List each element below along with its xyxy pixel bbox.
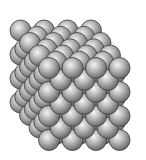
atom-sphere [86, 58, 107, 79]
atom-sphere [62, 58, 83, 79]
lattice-svg [0, 0, 146, 160]
crystal-lattice-illustration [0, 0, 146, 160]
sphere-group [10, 20, 130, 151]
atom-sphere [109, 58, 130, 79]
atom-sphere [39, 58, 60, 79]
